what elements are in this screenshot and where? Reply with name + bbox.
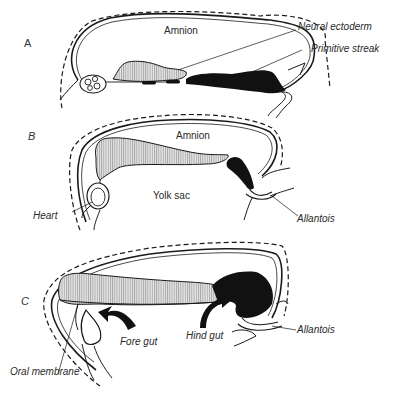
panel-a-letter: A xyxy=(24,38,31,49)
heart-label: Heart xyxy=(33,211,57,221)
primitive-streak-label: Primitive streak xyxy=(311,44,379,54)
panel-c-drawing xyxy=(44,242,296,386)
amnion-label-b: Amnion xyxy=(176,131,210,141)
amnion-label-a: Amnion xyxy=(164,26,198,36)
allantois-label-b: Allantois xyxy=(297,214,335,224)
diagram-drawing xyxy=(0,0,394,404)
panel-c-letter: C xyxy=(21,296,29,307)
yolk-sac-label: Yolk sac xyxy=(153,191,190,201)
allantois-label-c: Allantois xyxy=(297,325,335,335)
panel-b-letter: B xyxy=(28,131,35,142)
embryo-folding-diagram: A Amnion Neural ectoderm Primitive strea… xyxy=(0,0,394,404)
fore-gut-label: Fore gut xyxy=(120,337,157,347)
neural-ectoderm-label: Neural ectoderm xyxy=(298,22,372,32)
hind-gut-label: Hind gut xyxy=(186,331,223,341)
oral-membrane-label: Oral membrane xyxy=(10,367,79,377)
